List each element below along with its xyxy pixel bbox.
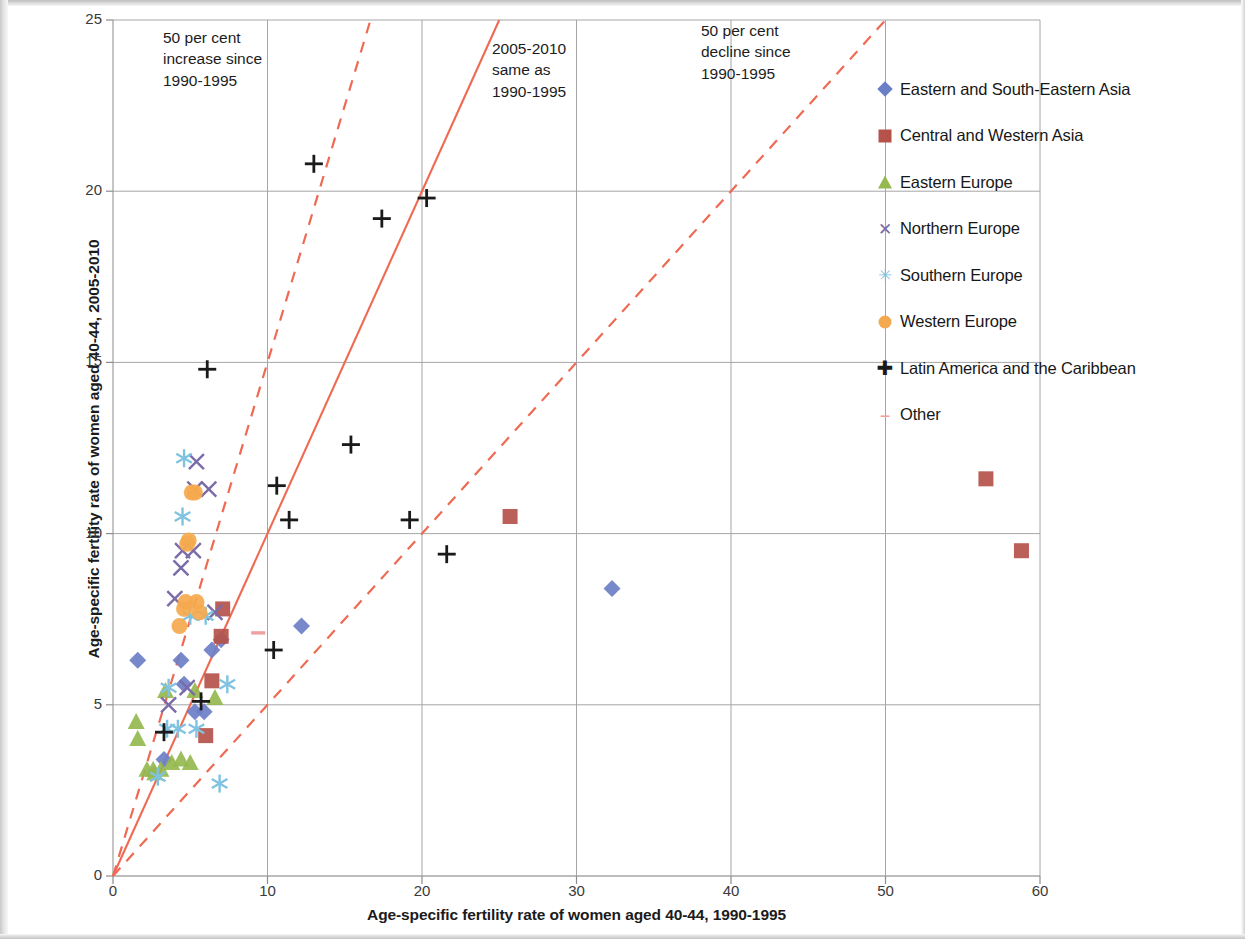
- marker-square: [1014, 543, 1029, 558]
- marker-asterisk: [220, 675, 236, 693]
- x-tick-label: 30: [557, 882, 597, 899]
- marker-plus: [198, 360, 216, 378]
- marker-square: [978, 471, 993, 486]
- x-tick-label: 50: [866, 882, 906, 899]
- marker-plus: [418, 189, 436, 207]
- circle-icon: [872, 312, 898, 332]
- plus-icon: ✚: [872, 358, 898, 378]
- marker-asterisk: [212, 775, 228, 793]
- legend-item-circle[interactable]: Western Europe: [872, 299, 1208, 346]
- marker-diamond: [196, 703, 213, 720]
- reference-line-solid: [113, 20, 499, 876]
- x-tick-label: 60: [1020, 882, 1060, 899]
- x-icon: ✕: [872, 219, 898, 239]
- marker-x: [173, 560, 188, 575]
- series-1: [198, 471, 1029, 743]
- x-tick-label: 20: [402, 882, 442, 899]
- legend-item-label: Latin America and the Caribbean: [900, 359, 1136, 378]
- diamond-icon: [872, 79, 898, 99]
- marker-plus: [280, 511, 298, 529]
- annotation-same: 2005-2010 same as 1990-1995: [492, 38, 566, 102]
- marker-x: [201, 482, 216, 497]
- triangle-icon: [872, 172, 898, 192]
- marker-diamond: [604, 580, 621, 597]
- marker-asterisk: [176, 449, 192, 467]
- marker-triangle: [129, 730, 146, 746]
- square-icon: [872, 126, 898, 146]
- marker-asterisk: [175, 507, 191, 525]
- marker-diamond: [172, 652, 189, 669]
- marker-plus: [373, 210, 391, 228]
- annotation-increase: 50 per cent increase since 1990-1995: [163, 27, 262, 91]
- reference-line-dashed: [113, 20, 371, 876]
- marker-square: [214, 629, 229, 644]
- legend-item-square[interactable]: Central and Western Asia: [872, 113, 1208, 160]
- marker-diamond: [129, 652, 146, 669]
- marker-circle: [187, 485, 203, 501]
- legend-item-plus[interactable]: ✚Latin America and the Caribbean: [872, 345, 1208, 392]
- legend-item-label: Central and Western Asia: [900, 126, 1083, 145]
- marker-circle: [192, 604, 208, 620]
- y-tick-label: 5: [62, 695, 102, 712]
- marker-circle: [181, 532, 197, 548]
- marker-plus: [268, 477, 286, 495]
- marker-plus: [342, 436, 360, 454]
- marker-triangle: [128, 713, 145, 729]
- marker-circle: [171, 618, 187, 634]
- legend-item-label: Western Europe: [900, 312, 1017, 331]
- legend-item-asterisk[interactable]: ✳Southern Europe: [872, 252, 1208, 299]
- legend-item-label: Eastern and South-Eastern Asia: [900, 80, 1130, 99]
- x-tick-label: 10: [248, 882, 288, 899]
- y-tick-label: 15: [62, 352, 102, 369]
- x-axis-title: Age-specific fertility rate of women age…: [113, 906, 1040, 924]
- marker-plus: [438, 545, 456, 563]
- x-tick-label: 40: [711, 882, 751, 899]
- reference-line-dashed: [113, 20, 886, 876]
- reference-lines: [113, 20, 886, 876]
- marker-asterisk: [159, 720, 175, 738]
- y-tick-label: 10: [62, 524, 102, 541]
- asterisk-icon: ✳: [872, 265, 898, 285]
- legend: Eastern and South-Eastern AsiaCentral an…: [872, 66, 1208, 438]
- legend-item-label: Eastern Europe: [900, 173, 1013, 192]
- chart-page: 50 per cent increase since 1990-1995 200…: [0, 0, 1245, 939]
- legend-item-triangle[interactable]: Eastern Europe: [872, 159, 1208, 206]
- y-tick-label: 20: [62, 181, 102, 198]
- legend-item-label: Southern Europe: [900, 266, 1023, 285]
- y-tick-label: 0: [62, 866, 102, 883]
- marker-square: [503, 509, 518, 524]
- marker-diamond: [293, 618, 310, 635]
- series-5: [171, 485, 207, 635]
- legend-item-dash[interactable]: –Other: [872, 392, 1208, 439]
- legend-item-label: Other: [900, 405, 941, 424]
- x-tick-label: 0: [93, 882, 133, 899]
- y-tick-label: 25: [62, 10, 102, 27]
- marker-plus: [401, 511, 419, 529]
- legend-item-label: Northern Europe: [900, 219, 1020, 238]
- dash-icon: –: [872, 405, 898, 425]
- marker-plus: [305, 155, 323, 173]
- legend-item-x[interactable]: ✕Northern Europe: [872, 206, 1208, 253]
- marker-square: [204, 673, 219, 688]
- legend-item-diamond[interactable]: Eastern and South-Eastern Asia: [872, 66, 1208, 113]
- annotation-decline: 50 per cent decline since 1990-1995: [701, 20, 791, 84]
